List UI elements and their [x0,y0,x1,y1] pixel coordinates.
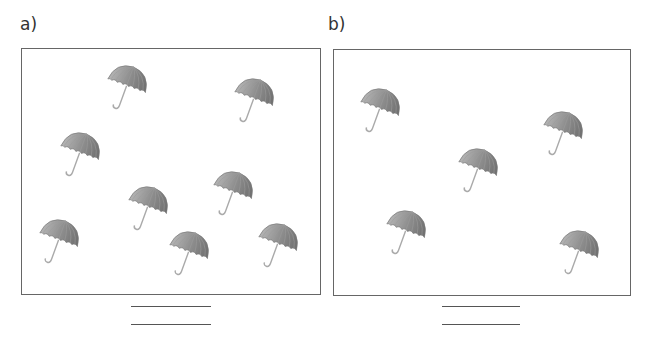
umbrella-icon [455,147,503,197]
umbrella-icon [57,131,105,181]
umbrella-icon [125,185,173,235]
panel-a-answer-line-2 [131,324,211,325]
umbrella-icon [255,222,303,272]
umbrella-icon [36,218,84,268]
umbrella-icon [210,170,258,220]
umbrella-icon [556,229,604,279]
umbrella-icon [231,77,279,127]
umbrella-icon [383,209,431,259]
umbrella-icon [104,64,152,114]
umbrella-icon [540,110,588,160]
panel-b-answer-line-2 [442,324,520,325]
panel-b-label: b) [328,14,345,34]
umbrella-icon [166,230,214,280]
panel-a-label: a) [20,14,37,34]
panel-b-answer-line-1 [442,306,520,307]
umbrella-icon [357,87,405,137]
panel-a-answer-line-1 [131,306,211,307]
